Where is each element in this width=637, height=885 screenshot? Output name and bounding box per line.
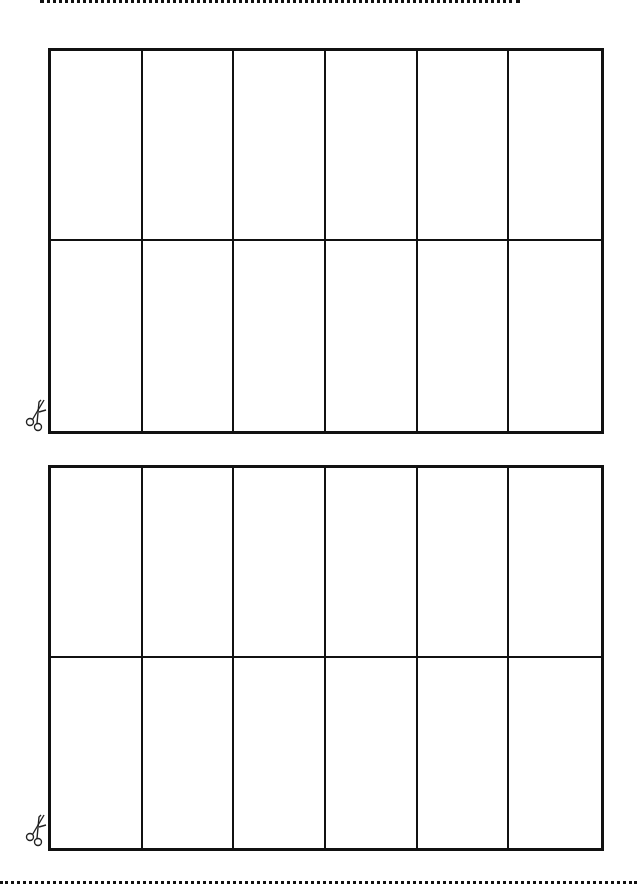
grid-cell bbox=[234, 468, 326, 658]
grid-cell bbox=[509, 658, 601, 848]
grid-cell bbox=[509, 241, 601, 431]
grid-cell bbox=[51, 658, 143, 848]
bottom-cut-line bbox=[0, 881, 637, 884]
scissors-icon bbox=[24, 813, 50, 847]
scissors-icon bbox=[24, 398, 50, 432]
card-grid-2 bbox=[48, 465, 604, 851]
grid-cell bbox=[234, 658, 326, 848]
grid-cell bbox=[51, 51, 143, 241]
top-cut-line bbox=[40, 0, 520, 3]
grid-cell bbox=[143, 468, 235, 658]
grid-cell bbox=[143, 658, 235, 848]
grid-cell bbox=[326, 468, 418, 658]
grid-cell bbox=[418, 658, 510, 848]
grid-cell bbox=[234, 241, 326, 431]
grid-cell bbox=[143, 51, 235, 241]
grid-cell bbox=[509, 51, 601, 241]
grid-cell bbox=[51, 241, 143, 431]
grid-cell bbox=[326, 241, 418, 431]
grid-cell bbox=[326, 658, 418, 848]
grid-cell bbox=[51, 468, 143, 658]
grid-cell bbox=[326, 51, 418, 241]
grid-cell bbox=[418, 468, 510, 658]
card-grid-1 bbox=[48, 48, 604, 434]
grid-cell bbox=[234, 51, 326, 241]
grid-cell bbox=[143, 241, 235, 431]
grid-cell bbox=[418, 51, 510, 241]
grid-cell bbox=[509, 468, 601, 658]
grid-cell bbox=[418, 241, 510, 431]
